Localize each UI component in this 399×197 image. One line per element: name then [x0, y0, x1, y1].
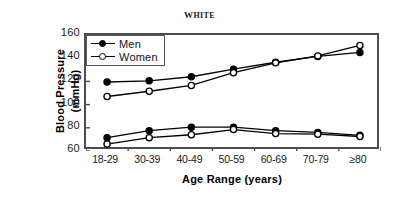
- filled-circle-icon: [90, 38, 116, 50]
- data-point-men-diastolic: [188, 124, 194, 130]
- data-point-women-diastolic: [315, 131, 321, 137]
- open-circle-icon: [90, 51, 116, 63]
- x-axis-tick-label: 40-49: [176, 153, 202, 165]
- legend-item-women: Women: [90, 50, 158, 63]
- data-point-women-diastolic: [273, 131, 279, 137]
- y-axis-tick-label: 140: [52, 49, 80, 61]
- data-point-women-systolic: [146, 88, 152, 94]
- y-axis-tick-label: 120: [52, 72, 80, 84]
- x-axis-tick-label: 30-39: [134, 153, 160, 165]
- y-axis-tick-labels: 6080100120140160: [50, 0, 80, 197]
- data-point-men-diastolic: [104, 135, 110, 141]
- data-point-women-systolic: [273, 60, 279, 66]
- data-point-women-diastolic: [188, 132, 194, 138]
- x-axis-label: Age Range (years): [84, 173, 380, 185]
- chart-figure: WHITE Blood Pressure (mmHg) 608010012014…: [0, 0, 399, 197]
- y-axis-tick-label: 100: [52, 96, 80, 108]
- data-point-men-systolic: [357, 49, 363, 55]
- x-axis-tick-label: ≥80: [350, 153, 367, 165]
- y-axis-tick-label: 160: [52, 26, 80, 38]
- data-point-women-diastolic: [230, 126, 236, 132]
- data-point-men-systolic: [188, 74, 194, 80]
- data-point-women-systolic: [230, 70, 236, 76]
- data-point-men-systolic: [104, 79, 110, 85]
- data-point-women-diastolic: [104, 141, 110, 147]
- x-axis-tick-label: 18-29: [92, 153, 118, 165]
- legend-label: Women: [116, 51, 158, 63]
- y-axis-tick-label: 80: [52, 119, 80, 131]
- x-axis-tick-labels: 18-2930-3940-4950-5960-6970-79≥80: [84, 153, 379, 169]
- data-point-women-systolic: [315, 53, 321, 59]
- data-point-women-diastolic: [146, 135, 152, 141]
- y-axis-tick-label: 60: [52, 142, 80, 154]
- data-point-men-systolic: [146, 78, 152, 84]
- x-axis-tick-label: 70-79: [303, 153, 329, 165]
- data-point-women-diastolic: [357, 133, 363, 139]
- data-point-men-diastolic: [146, 128, 152, 134]
- x-axis-tick-label: 50-59: [219, 153, 245, 165]
- y-axis-label: Blood Pressure (mmHg): [2, 33, 36, 149]
- legend-label: Men: [116, 38, 141, 50]
- chart-legend: MenWomen: [86, 35, 165, 66]
- data-point-women-systolic: [104, 93, 110, 99]
- data-point-women-systolic: [188, 82, 194, 88]
- legend-item-men: Men: [90, 37, 158, 50]
- x-axis-tick-label: 60-69: [261, 153, 287, 165]
- data-point-women-systolic: [357, 42, 363, 48]
